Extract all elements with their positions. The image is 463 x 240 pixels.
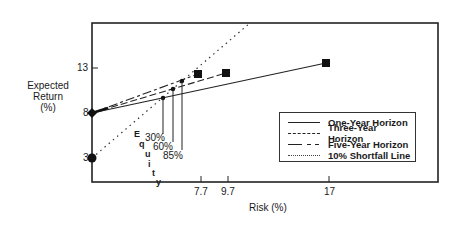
x-axis-label: Risk (%) (249, 202, 287, 213)
five-year-endpoint (194, 70, 202, 78)
three-year-endpoint (222, 69, 230, 77)
equity-letter-y: y (156, 177, 161, 187)
mix-label-85: 85% (163, 150, 183, 161)
equity-letter-i: i (148, 159, 151, 169)
three-year-line (92, 73, 226, 113)
legend-swatch-dash-dot (288, 144, 320, 145)
legend-swatch-solid (288, 122, 320, 123)
legend-label: 10% Shortfall Line (328, 150, 410, 161)
legend-swatch-dotted (288, 155, 320, 156)
equity-letter-q: q (139, 139, 145, 149)
legend-label: Five-Year Horizon (328, 139, 408, 150)
y-tick-label-3: 3 (83, 152, 89, 163)
y-tick-label-13: 13 (77, 62, 88, 73)
shortfall-line (92, 23, 250, 158)
legend: One-Year Horizon Three-Year Horizon Five… (279, 112, 416, 162)
x-tick-label-9.7: 9.7 (221, 186, 235, 197)
legend-item-shortfall: 10% Shortfall Line (288, 150, 410, 160)
equity-letter-t: t (152, 168, 155, 178)
one-year-line (92, 63, 326, 113)
legend-item-three-year: Three-Year Horizon (288, 128, 415, 138)
y-axis-label: Expected Return (%) (22, 80, 74, 113)
y-axis-label-line1: Expected (22, 80, 74, 91)
x-tick-label-7.7: 7.7 (194, 186, 208, 197)
legend-swatch-dashed (288, 133, 320, 134)
equity-letter-e: E (134, 129, 140, 139)
y-tick-label-8: 8 (83, 107, 89, 118)
y-axis-label-line2: Return (22, 91, 74, 102)
one-year-endpoint (322, 59, 330, 67)
y-axis-label-line3: (%) (22, 102, 74, 113)
equity-letter-u: u (145, 149, 151, 159)
legend-item-five-year: Five-Year Horizon (288, 139, 408, 149)
x-tick-label-17: 17 (324, 186, 335, 197)
